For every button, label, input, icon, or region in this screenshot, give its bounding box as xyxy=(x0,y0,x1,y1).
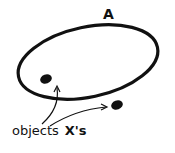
object-inside-dot xyxy=(39,73,53,86)
set-a-label: A xyxy=(103,6,114,22)
objects-label: objectsX's xyxy=(12,123,87,138)
objects-symbol: X's xyxy=(65,123,87,138)
objects-text: objects xyxy=(12,123,59,138)
object-outside-dot xyxy=(110,99,124,112)
set-a-ellipse xyxy=(11,13,164,111)
arrow-to-inside xyxy=(42,88,57,124)
